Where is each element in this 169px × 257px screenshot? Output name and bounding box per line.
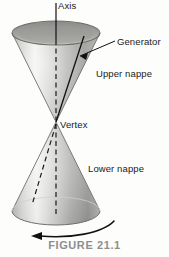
label-axis: Axis xyxy=(58,1,76,11)
label-vertex: Vertex xyxy=(60,120,88,130)
figure-container: Axis Generator Upper nappe Vertex Lower … xyxy=(0,0,169,257)
label-lower-nappe: Lower nappe xyxy=(88,164,144,174)
figure-caption: FIGURE 21.1 xyxy=(0,239,169,251)
label-upper-nappe: Upper nappe xyxy=(96,69,152,79)
label-generator: Generator xyxy=(117,37,161,47)
